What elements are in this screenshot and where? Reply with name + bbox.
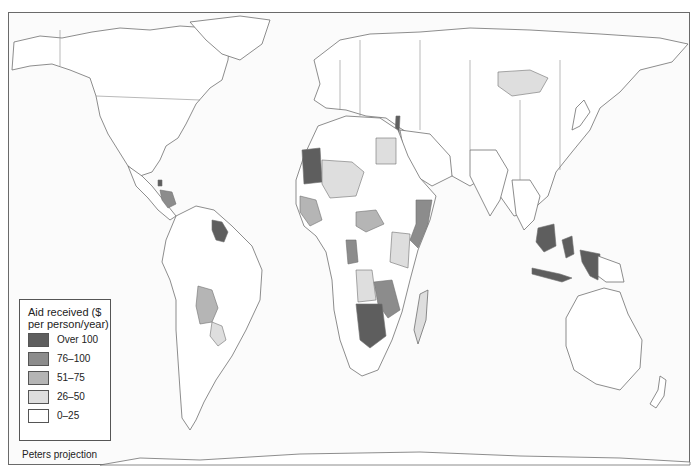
legend-item-51-75: 51–75	[28, 368, 110, 387]
map-legend: Aid received ($ per person/year) Over 10…	[19, 299, 111, 441]
legend-swatch	[28, 352, 49, 366]
legend-swatch	[28, 333, 49, 347]
legend-item-0-25: 0–25	[28, 406, 110, 425]
legend-swatch	[28, 409, 49, 423]
legend-label: 51–75	[57, 372, 85, 383]
legend-swatch	[28, 371, 49, 385]
region-mauritania	[302, 148, 322, 184]
australia	[566, 288, 642, 390]
legend-label: Over 100	[57, 334, 98, 345]
legend-label: 76–100	[57, 353, 90, 364]
region-east-africa	[390, 232, 410, 268]
region-png	[598, 256, 624, 282]
legend-label: 0–25	[57, 410, 79, 421]
region-belize	[158, 180, 162, 186]
north-america	[12, 26, 230, 176]
region-borneo	[536, 224, 556, 252]
region-new-guinea-west	[580, 250, 600, 280]
legend-item-26-50: 26–50	[28, 387, 110, 406]
legend-label: 26–50	[57, 391, 85, 402]
legend-swatch	[28, 390, 49, 404]
region-sulawesi	[562, 236, 574, 258]
region-java	[532, 268, 572, 282]
projection-label: Peters projection	[22, 449, 97, 460]
new-zealand	[650, 376, 666, 408]
legend-title-line2: per person/year)	[28, 318, 110, 330]
antarctica	[100, 452, 690, 465]
region-egypt	[376, 138, 396, 164]
india	[470, 150, 508, 216]
region-madagascar	[414, 290, 428, 344]
legend-title-line1: Aid received ($	[28, 306, 110, 318]
legend-item-76-100: 76–100	[28, 349, 110, 368]
legend-item-over-100: Over 100	[28, 330, 110, 349]
region-congo	[346, 240, 358, 264]
